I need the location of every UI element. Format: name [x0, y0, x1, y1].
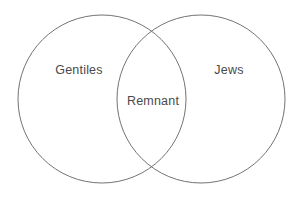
label-right-set: Jews — [214, 64, 243, 77]
label-intersection: Remnant — [127, 95, 179, 108]
label-left-set: Gentiles — [55, 64, 102, 77]
venn-diagram: Gentiles Jews Remnant — [0, 0, 302, 199]
